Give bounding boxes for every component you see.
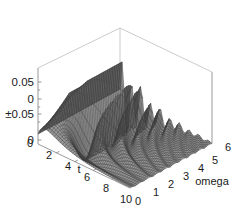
t-tick-mark-2 (75, 160, 78, 161)
surface-plot-canvas: 0.05 0 ±0.05 0 0 2 4 6 8 10 t (0, 0, 238, 219)
omega-axis-label: omega (195, 175, 230, 187)
z-tick-label-1: 0 (28, 93, 34, 105)
t-tick-mark-3 (93, 169, 96, 170)
box-edge-back-top-left (38, 28, 120, 68)
z-tick-label-0: 0.05 (12, 76, 34, 88)
t-tick-label-0: 0 (27, 137, 33, 149)
surface-plot-figure: 0.05 0 ±0.05 0 0 2 4 6 8 10 t (0, 0, 238, 219)
z-axis-tick-labels: 0.05 0 ±0.05 0 (5, 76, 34, 146)
omega-tick-label-2: 2 (168, 178, 174, 190)
omega-tick-label-3: 3 (183, 170, 189, 182)
t-tick-label-1: 2 (46, 149, 52, 161)
t-axis-label: t (77, 163, 80, 175)
z-tick-label-2: ±0.05 (5, 108, 34, 120)
omega-tick-label-1: 1 (153, 186, 159, 198)
omega-tick-label-5: 5 (212, 154, 218, 166)
box-edge-back-top-right (120, 28, 212, 72)
t-tick-label-2: 4 (65, 160, 71, 172)
t-tick-label-5: 10 (120, 193, 132, 205)
omega-tick-label-4: 4 (198, 162, 204, 174)
t-tick-label-4: 8 (103, 182, 109, 194)
omega-tick-label-6: 6 (225, 141, 231, 153)
t-tick-label-3: 6 (84, 171, 90, 183)
omega-tick-label-0: 0 (135, 195, 141, 207)
t-tick-mark-1 (56, 151, 59, 152)
